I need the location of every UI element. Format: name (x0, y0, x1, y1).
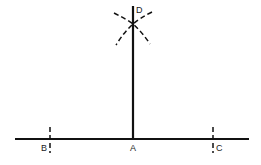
label-B: B (41, 143, 47, 153)
label-D: D (136, 5, 143, 15)
label-A: A (130, 143, 136, 153)
label-C: C (216, 143, 223, 153)
perpendicular-construction-diagram: B A C D (0, 0, 261, 165)
